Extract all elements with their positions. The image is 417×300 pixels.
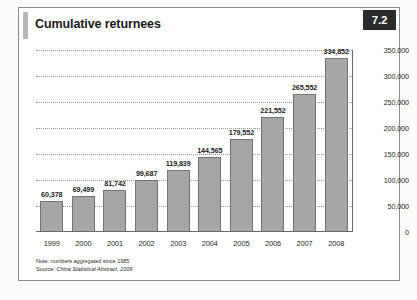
- bar-value-label: 179,552: [229, 128, 254, 137]
- bar[interactable]: [103, 190, 126, 233]
- y-axis-tick: 200,000: [384, 124, 409, 133]
- y-axis-tick: 0: [405, 228, 409, 237]
- bar[interactable]: [40, 201, 63, 232]
- x-axis-tick: 2005: [226, 239, 258, 248]
- bar[interactable]: [325, 58, 348, 232]
- figure-title: Cumulative returnees: [35, 17, 161, 31]
- y-axis-tick-labels: 050,000100,000150,000200,000250,000300,0…: [359, 50, 409, 232]
- bar-value-label: 144,565: [197, 146, 222, 155]
- bar-value-label: 221,552: [260, 106, 285, 115]
- figure-container: Cumulative returnees 7.2 60,37869,49981,…: [18, 7, 400, 281]
- bar-slot: 119,839: [162, 50, 194, 232]
- bar[interactable]: [167, 170, 190, 232]
- bar-slot: 144,565: [194, 50, 226, 232]
- bar[interactable]: [72, 196, 95, 232]
- note-aggregation: Note: numbers aggregated since 1985: [36, 258, 336, 266]
- bar-slot: 179,552: [226, 50, 258, 232]
- note-source-title: China Statistical Abstract, 2009: [56, 266, 132, 272]
- x-axis-tick: 2008: [320, 239, 352, 248]
- y-axis-tick: 50,000: [388, 202, 409, 211]
- x-axis-tick: 2003: [162, 239, 194, 248]
- bar[interactable]: [198, 157, 221, 232]
- x-axis-tick: 2007: [289, 239, 321, 248]
- bar-value-label: 81,742: [104, 179, 125, 188]
- y-axis-tick: 100,000: [384, 176, 409, 185]
- bar-slot: 81,742: [99, 50, 131, 232]
- bar-value-label: 99,687: [136, 169, 157, 178]
- bar-group: 60,37869,49981,74299,687119,839144,56517…: [36, 50, 352, 232]
- y-axis-tick: 150,000: [384, 150, 409, 159]
- y-axis-line: [352, 50, 353, 232]
- bar[interactable]: [261, 117, 284, 232]
- bar[interactable]: [230, 139, 253, 232]
- x-axis-line: [36, 231, 352, 232]
- x-axis-tick: 2000: [68, 239, 100, 248]
- x-axis-tick: 2001: [99, 239, 131, 248]
- note-source-label: Source:: [36, 266, 56, 272]
- bar-value-label: 60,378: [41, 190, 62, 199]
- bar-slot: 99,687: [131, 50, 163, 232]
- bar-slot: 334,852: [320, 50, 352, 232]
- bar-slot: 60,378: [36, 50, 68, 232]
- x-axis-tick: 1999: [36, 239, 68, 248]
- y-axis-tick: 250,000: [384, 98, 409, 107]
- note-source: Source: China Statistical Abstract, 2009: [36, 266, 336, 274]
- figure-number-badge: 7.2: [363, 10, 396, 30]
- bar-slot: 221,552: [257, 50, 289, 232]
- bar-value-label: 119,839: [166, 159, 191, 168]
- bar-value-label: 69,499: [73, 185, 94, 194]
- bar-value-label: 265,552: [292, 83, 317, 92]
- x-axis-tick-labels: 1999200020012002200320042005200620072008: [36, 236, 352, 248]
- title-accent-bar: [23, 12, 28, 39]
- bar-slot: 69,499: [68, 50, 100, 232]
- page-canvas: Cumulative returnees 7.2 60,37869,49981,…: [0, 0, 417, 300]
- x-axis-tick: 2002: [131, 239, 163, 248]
- figure-header: Cumulative returnees 7.2: [19, 8, 399, 43]
- bar-slot: 265,552: [289, 50, 321, 232]
- bar[interactable]: [135, 180, 158, 232]
- bar[interactable]: [293, 94, 316, 232]
- y-axis-tick: 350,000: [384, 46, 409, 55]
- figure-notes: Note: numbers aggregated since 1985 Sour…: [36, 258, 336, 273]
- bar-value-label: 334,852: [324, 47, 349, 56]
- chart-plot-area: 60,37869,49981,74299,687119,839144,56517…: [36, 50, 352, 232]
- x-axis-tick: 2004: [194, 239, 226, 248]
- x-axis-tick: 2006: [257, 239, 289, 248]
- y-axis-tick: 300,000: [384, 72, 409, 81]
